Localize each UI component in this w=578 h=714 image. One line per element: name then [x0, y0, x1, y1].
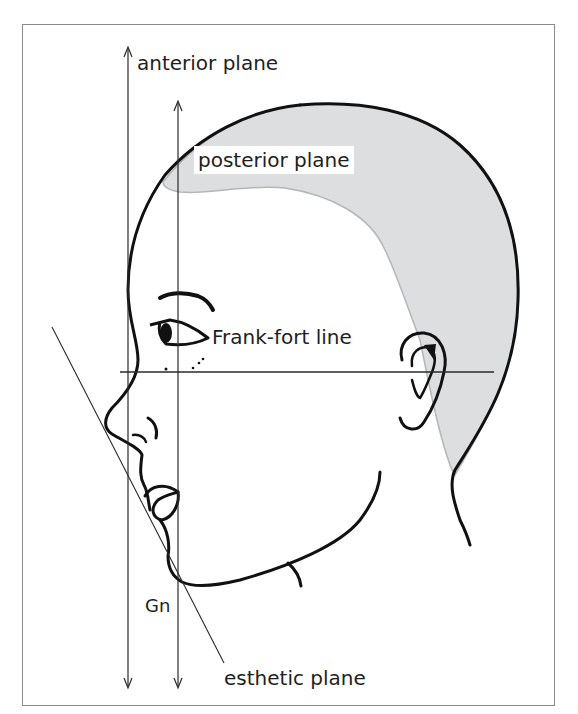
eye	[150, 320, 208, 345]
posterior-plane-label: posterior plane	[194, 146, 354, 174]
anterior-plane-label: anterior plane	[137, 53, 278, 73]
gn-landmark-label: Gn	[145, 597, 170, 615]
orbitale-dot	[165, 368, 168, 371]
eyebrow	[160, 293, 213, 310]
profile-diagram	[0, 0, 578, 714]
nostril	[148, 418, 157, 438]
eye-iris	[160, 323, 172, 343]
esthetic-plane-line	[52, 327, 224, 663]
neck-mark	[288, 563, 301, 586]
esthetic-plane-label: esthetic plane	[224, 668, 366, 688]
lower-lip	[153, 492, 178, 520]
orbitale-dot	[192, 367, 195, 370]
orbitale-dot	[202, 358, 205, 361]
orbitale-dot	[198, 362, 201, 365]
chin-jaw-outline	[160, 472, 380, 586]
nostril-base	[133, 435, 146, 442]
frankfort-line-label: Frank-fort line	[212, 327, 352, 347]
